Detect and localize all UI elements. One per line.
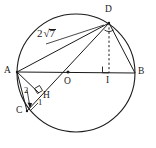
- figure-canvas: [0, 0, 156, 148]
- segment-ab: [17, 72, 135, 73]
- point-label-O: O: [64, 77, 71, 87]
- length-label-ch: 1: [38, 98, 42, 107]
- point-label-I: I: [106, 76, 109, 86]
- point-C-dot: [26, 110, 28, 112]
- point-O-dot: [67, 71, 70, 74]
- leader-line-one: [31, 103, 38, 110]
- length-label-ad: 2√7: [37, 28, 55, 39]
- segment-ad: [17, 23, 109, 72]
- point-D-dot: [108, 22, 110, 24]
- point-label-D: D: [105, 5, 112, 15]
- right-angle-at-I-icon: [103, 67, 110, 73]
- point-label-A: A: [4, 66, 11, 76]
- point-A-dot: [16, 71, 18, 73]
- point-label-B: B: [138, 67, 144, 77]
- square-root-icon: √7: [43, 28, 56, 39]
- point-label-C: C: [16, 106, 22, 116]
- point-label-H: H: [43, 91, 50, 101]
- length-label-ac: 2: [24, 86, 28, 95]
- angle-mark-at-D-icon: [105, 30, 114, 31]
- geometry-figure: A B C D O H I 2√7 2 1: [0, 0, 156, 148]
